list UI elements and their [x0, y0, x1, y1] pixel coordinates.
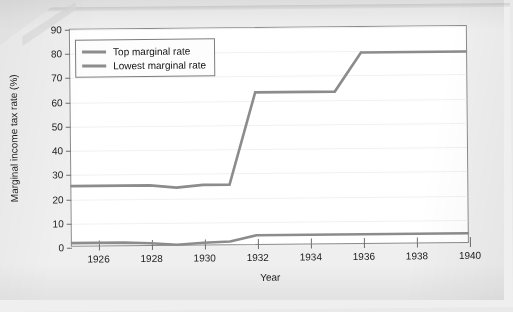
chart-figure: 0102030405060708090192619281930193219341…	[0, 0, 505, 302]
series-lines	[0, 0, 505, 302]
series-line-lowest-marginal-rate	[71, 233, 469, 246]
series-line-top-marginal-rate	[69, 52, 468, 189]
